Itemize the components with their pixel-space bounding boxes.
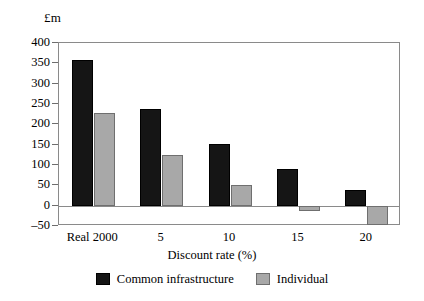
y-axis-tick-label: 50 xyxy=(16,178,50,190)
bar xyxy=(94,113,115,205)
bar xyxy=(345,190,366,205)
legend-item: Common infrastructure xyxy=(96,272,234,286)
y-axis-tick-mark xyxy=(52,225,58,226)
x-axis-tick-label: 10 xyxy=(223,230,236,244)
bar xyxy=(299,206,320,211)
zero-baseline xyxy=(59,206,399,207)
y-axis-tick-label: 0 xyxy=(16,199,50,211)
y-axis-tick-label: 300 xyxy=(16,77,50,89)
bar xyxy=(209,144,230,206)
bar-chart: £m 400350300250200150100500–50 Real 2000… xyxy=(0,0,424,301)
x-axis-tick-label: Real 2000 xyxy=(67,230,118,244)
legend-item: Individual xyxy=(256,272,328,286)
x-axis-tick-label: 20 xyxy=(360,230,373,244)
bar xyxy=(162,155,183,206)
legend-label: Common infrastructure xyxy=(117,272,234,286)
y-axis-tick-label: –50 xyxy=(16,219,50,231)
legend-label: Individual xyxy=(277,272,328,286)
y-axis-unit-label: £m xyxy=(44,11,61,25)
legend-swatch-black xyxy=(96,273,110,285)
x-axis-title: Discount rate (%) xyxy=(0,248,424,262)
y-axis-tick-label: 150 xyxy=(16,138,50,150)
plot-inner xyxy=(59,43,399,224)
bar xyxy=(140,109,161,206)
bar xyxy=(231,185,252,205)
x-axis-tick-label: 5 xyxy=(157,230,163,244)
chart-legend: Common infrastructureIndividual xyxy=(0,272,424,286)
y-axis-tick-label: 350 xyxy=(16,56,50,68)
y-axis-tick-label: 250 xyxy=(16,97,50,109)
x-axis-tick-label: 15 xyxy=(291,230,304,244)
bar xyxy=(367,206,388,226)
y-axis-tick-label: 100 xyxy=(16,158,50,170)
y-axis-tick-label: 200 xyxy=(16,117,50,129)
legend-swatch-gray xyxy=(256,273,270,285)
bar xyxy=(277,169,298,206)
plot-area xyxy=(58,42,400,225)
y-axis-tick-label: 400 xyxy=(16,36,50,48)
bar xyxy=(72,60,93,205)
